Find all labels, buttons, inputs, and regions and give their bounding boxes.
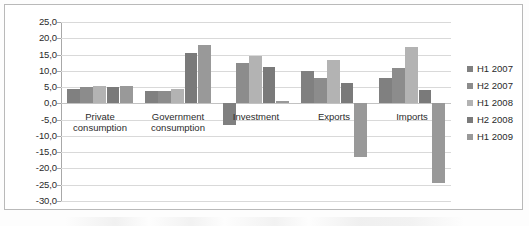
bar	[93, 86, 106, 104]
legend-label: H2 2008	[477, 114, 513, 125]
gridline	[61, 201, 451, 202]
bar	[263, 67, 276, 103]
y-axis-tick-label: 25,0	[9, 17, 57, 27]
legend-swatch-icon	[467, 100, 473, 106]
category-label-line: Imports	[363, 111, 461, 122]
chart-legend: H1 2007H2 2007H1 2008H2 2008H1 2009	[467, 60, 529, 145]
legend-item[interactable]: H2 2008	[467, 111, 529, 128]
y-axis-tick-label: 5,0	[9, 82, 57, 92]
bar	[120, 86, 133, 103]
bar	[314, 78, 327, 104]
bar	[276, 101, 289, 104]
plot-area: PrivateconsumptionGovernmentconsumptionI…	[61, 22, 451, 201]
y-axis-labels: 25,020,015,010,05,00,0-5,0-10,0-15,0-20,…	[5, 22, 57, 201]
chart-screenshot: 25,020,015,010,05,00,0-5,0-10,0-15,0-20,…	[0, 0, 529, 226]
bar	[341, 83, 354, 104]
legend-label: H1 2009	[477, 131, 513, 142]
x-axis-category-label: Imports	[363, 111, 461, 122]
bar	[236, 63, 249, 103]
legend-label: H1 2008	[477, 97, 513, 108]
bar	[405, 47, 418, 103]
bar	[67, 89, 80, 104]
scan-artifact	[65, 217, 485, 226]
bar	[80, 87, 93, 104]
y-axis-tick-label: -20,0	[9, 163, 57, 173]
category-label-line: consumption	[129, 122, 227, 133]
bar	[185, 53, 198, 103]
bar	[379, 78, 392, 104]
chart-frame: 25,020,015,010,05,00,0-5,0-10,0-15,0-20,…	[4, 4, 523, 210]
y-axis-tick-label: -15,0	[9, 147, 57, 157]
legend-item[interactable]: H1 2008	[467, 94, 529, 111]
y-axis-tick-label: -10,0	[9, 131, 57, 141]
y-axis-tick-label: -5,0	[9, 115, 57, 125]
bar	[392, 68, 405, 103]
legend-label: H1 2007	[477, 63, 513, 74]
legend-label: H2 2007	[477, 80, 513, 91]
y-axis-tick-label: 20,0	[9, 33, 57, 43]
bar	[107, 87, 120, 103]
y-axis-tick-label: -30,0	[9, 196, 57, 206]
bar	[327, 60, 340, 103]
bar	[419, 90, 432, 103]
legend-swatch-icon	[467, 66, 473, 72]
legend-swatch-icon	[467, 83, 473, 89]
legend-swatch-icon	[467, 117, 473, 123]
bar	[301, 71, 314, 103]
legend-swatch-icon	[467, 134, 473, 140]
legend-item[interactable]: H1 2007	[467, 60, 529, 77]
y-axis-tick-label: 0,0	[9, 98, 57, 108]
bar	[249, 56, 262, 104]
legend-item[interactable]: H1 2009	[467, 128, 529, 145]
bar	[198, 45, 211, 104]
legend-item[interactable]: H2 2007	[467, 77, 529, 94]
bar	[171, 89, 184, 104]
bar	[145, 91, 158, 103]
y-axis-tick-label: 10,0	[9, 66, 57, 76]
y-axis-tick-label: 15,0	[9, 50, 57, 60]
y-axis-tick-label: -25,0	[9, 180, 57, 190]
bar	[158, 91, 171, 104]
